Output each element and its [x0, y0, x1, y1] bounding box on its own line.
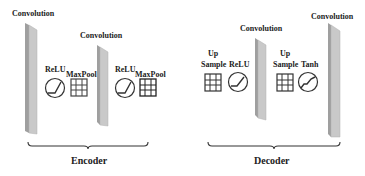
- convolution-slab-icon: [97, 45, 108, 126]
- tanh-label: Tanh: [301, 61, 319, 69]
- maxpool-grid-icon: [71, 79, 87, 96]
- tanh-icon: [299, 73, 318, 92]
- decoder-relu-label: ReLU: [229, 61, 249, 69]
- maxpool2-label: MaxPool: [135, 71, 166, 79]
- encoder-brace: [28, 142, 148, 149]
- relu-icon: [46, 79, 65, 98]
- relu1-label: ReLU: [45, 66, 65, 74]
- conv1-label: Convolution: [12, 10, 54, 18]
- relu2-label: ReLU: [115, 66, 135, 74]
- convolution-slab-icon: [255, 38, 266, 120]
- conv2-label: Convolution: [80, 32, 122, 40]
- encoder-label: Encoder: [71, 156, 107, 166]
- upsample1-label-line1: Up: [208, 50, 218, 58]
- upsample-grid-icon: [277, 74, 293, 91]
- upsample2-label-line1: Up: [280, 50, 290, 58]
- conv4-label: Convolution: [311, 13, 353, 21]
- maxpool1-label: MaxPool: [66, 71, 97, 79]
- maxpool-grid-icon: [140, 79, 156, 96]
- conv3-label: Convolution: [240, 25, 282, 33]
- convolution-slab-icon: [25, 23, 37, 134]
- diagram-canvas: [0, 0, 365, 176]
- upsample-grid-icon: [205, 74, 221, 91]
- upsample1-label-line2: Sample: [201, 61, 226, 69]
- relu-icon: [229, 73, 248, 92]
- convolution-slab-icon: [328, 23, 340, 137]
- relu-icon: [116, 79, 135, 98]
- upsample2-label-line2: Sample: [273, 61, 298, 69]
- decoder-brace: [208, 142, 340, 149]
- decoder-label: Decoder: [254, 156, 290, 166]
